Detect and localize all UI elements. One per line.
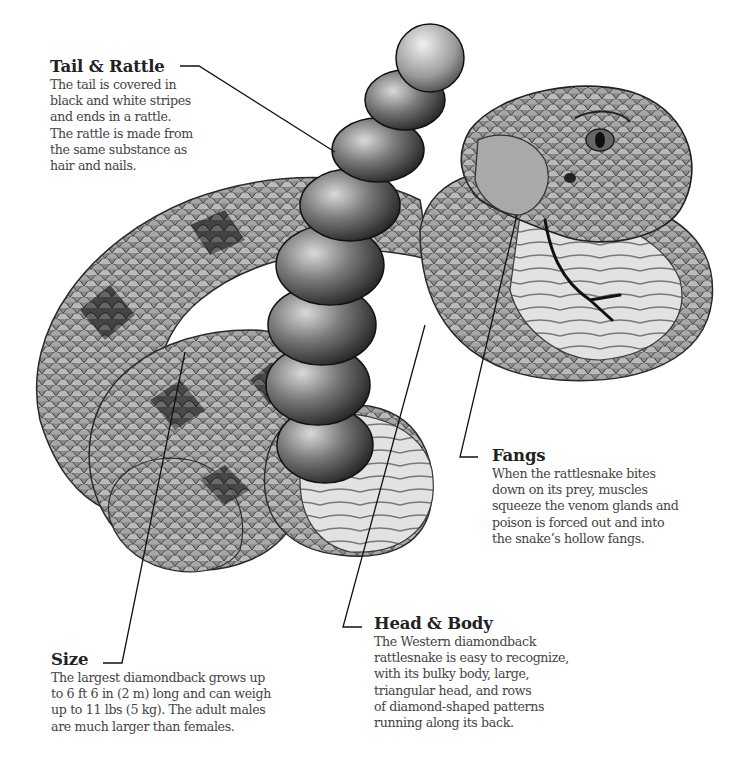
callout-line: hair and nails. — [50, 158, 210, 174]
callout-line: up to 11 lbs (5 kg). The adult males — [51, 702, 291, 718]
callout-line: The Western diamondback — [374, 634, 619, 650]
callout-line: are much larger than females. — [51, 719, 291, 735]
callout-line: down on its prey, muscles — [492, 482, 738, 498]
callout-line: and ends in a rattle. — [50, 109, 210, 125]
callout-line: the same substance as — [50, 142, 210, 158]
callout-line: to 6 ft 6 in (2 m) long and can weigh — [51, 686, 291, 702]
callout-line: The tail is covered in — [50, 77, 210, 93]
callout-line: The rattle is made from — [50, 126, 210, 142]
callout-line: The largest diamondback grows up — [51, 670, 291, 686]
callout-title: Fangs — [492, 446, 738, 466]
callout-title: Tail & Rattle — [50, 57, 210, 77]
callout-line: with its bulky body, large, — [374, 666, 619, 682]
callout-title: Head & Body — [374, 614, 619, 634]
callout-line: rattlesnake is easy to recognize, — [374, 650, 619, 666]
callout-size: Size The largest diamondback grows up to… — [51, 650, 291, 735]
callout-head-body: Head & Body The Western diamondback ratt… — [374, 614, 619, 731]
callout-tail-rattle: Tail & Rattle The tail is covered in bla… — [50, 57, 210, 174]
callout-line: squeeze the venom glands and — [492, 498, 738, 514]
callout-fangs: Fangs When the rattlesnake bites down on… — [492, 446, 738, 547]
callout-title: Size — [51, 650, 291, 670]
callout-line: the snake’s hollow fangs. — [492, 531, 738, 547]
callout-line: triangular head, and rows — [374, 683, 619, 699]
callout-line: black and white stripes — [50, 93, 210, 109]
callout-line: of diamond-shaped patterns — [374, 699, 619, 715]
callout-line: When the rattlesnake bites — [492, 466, 738, 482]
callout-line: running along its back. — [374, 715, 619, 731]
callout-line: poison is forced out and into — [492, 515, 738, 531]
